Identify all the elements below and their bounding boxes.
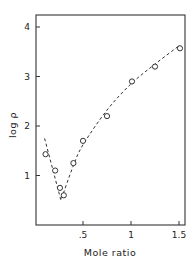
- data-point-marker: [80, 138, 85, 143]
- x-tick-label: .5: [79, 230, 88, 240]
- y-axis-label: log ρ: [7, 112, 18, 138]
- data-point-marker: [71, 161, 76, 166]
- x-axis-label: Mole ratio: [84, 247, 136, 258]
- data-point-marker: [61, 193, 66, 198]
- y-tick-label: 3: [24, 72, 30, 82]
- fit-curve: [45, 46, 179, 200]
- y-tick-label: 1: [24, 171, 30, 181]
- data-point-marker: [43, 152, 48, 157]
- y-tick-label: 4: [24, 22, 30, 32]
- x-tick-label: 1: [128, 230, 134, 240]
- plot-frame: [36, 15, 185, 225]
- x-tick-label: 1.5: [172, 230, 186, 240]
- data-point-marker: [177, 46, 182, 51]
- y-axis-ticks: 1234: [24, 22, 40, 181]
- data-point-marker: [104, 114, 109, 119]
- data-point-marker: [129, 79, 134, 84]
- y-tick-label: 2: [24, 121, 30, 131]
- chart: 1234 .511.5 Mole ratio log ρ: [0, 0, 196, 267]
- data-point-marker: [53, 168, 58, 173]
- data-point-marker: [152, 64, 157, 69]
- data-points: [43, 46, 183, 198]
- x-axis-ticks: .511.5: [79, 221, 186, 240]
- data-point-marker: [57, 185, 62, 190]
